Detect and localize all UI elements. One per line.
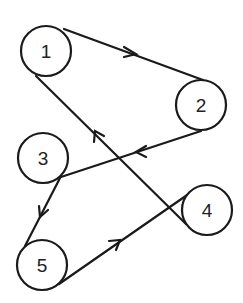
node-3: 3: [18, 133, 68, 183]
node-4-label: 4: [202, 200, 213, 221]
node-2-label: 2: [196, 95, 207, 116]
directed-cycle-diagram: 1 2 3 4 5: [0, 0, 243, 303]
node-4: 4: [182, 185, 232, 235]
nodes: 1 2 3 4 5: [17, 26, 232, 290]
edge-5-4: [59, 193, 190, 284]
edge-3-5: [25, 178, 60, 246]
node-5-label: 5: [37, 255, 48, 276]
node-5: 5: [17, 240, 67, 290]
node-1: 1: [21, 26, 71, 76]
node-3-label: 3: [38, 148, 49, 169]
diagram-canvas: 1 2 3 4 5: [0, 0, 243, 303]
node-1-label: 1: [41, 41, 52, 62]
node-2: 2: [176, 80, 226, 130]
